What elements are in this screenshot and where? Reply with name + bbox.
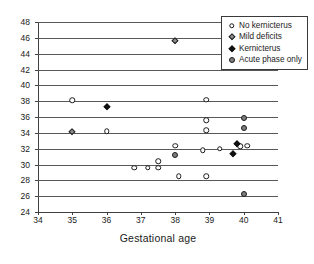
data-point	[217, 146, 223, 152]
x-axis-label: Gestational age	[38, 232, 278, 244]
legend-marker-glyph	[228, 45, 236, 53]
legend-label: Mild deficits	[239, 33, 282, 41]
data-point	[70, 98, 76, 104]
y-tick-mark	[35, 180, 38, 181]
data-point	[172, 143, 178, 149]
y-tick-mark	[35, 117, 38, 118]
y-tick-mark	[35, 38, 38, 39]
gridline	[38, 85, 278, 86]
data-point	[241, 125, 247, 131]
scatter-plot-figure: 24262830323436384042444648 3435363738394…	[0, 0, 314, 264]
y-tick-mark	[35, 70, 38, 71]
data-point	[241, 115, 247, 121]
legend-marker-glyph	[229, 23, 235, 29]
y-tick-label: 46	[21, 34, 30, 43]
y-tick-label: 40	[21, 81, 30, 90]
y-tick-label: 44	[21, 49, 30, 58]
data-point	[155, 165, 161, 171]
legend-label: Kernicterus	[239, 45, 280, 53]
legend-marker-icon	[226, 32, 237, 43]
y-tick-label: 36	[21, 113, 30, 122]
y-tick-label: 32	[21, 144, 30, 153]
legend-item: Acute phase only	[226, 55, 302, 67]
legend-marker-icon	[226, 20, 237, 31]
x-tick-label: 41	[273, 216, 282, 225]
data-point	[103, 103, 111, 111]
y-tick-label: 28	[21, 176, 30, 185]
y-tick-mark	[35, 133, 38, 134]
legend-label: Acute phase only	[239, 56, 302, 64]
y-tick-label: 30	[21, 160, 30, 169]
legend-label: No kernicterus	[239, 22, 292, 30]
gridline	[38, 180, 278, 181]
x-axis-line	[38, 212, 278, 213]
y-tick-mark	[35, 165, 38, 166]
data-point	[145, 165, 151, 171]
legend-item: Mild deficits	[226, 32, 302, 44]
data-point	[131, 165, 137, 171]
data-point	[230, 150, 238, 158]
data-point	[68, 128, 76, 136]
legend-item: Kernicterus	[226, 43, 302, 55]
x-tick-label: 40	[239, 216, 248, 225]
data-point	[203, 117, 209, 123]
data-point	[203, 174, 209, 180]
y-tick-mark	[35, 196, 38, 197]
data-point	[200, 148, 206, 154]
x-tick-label: 35	[68, 216, 77, 225]
x-tick-label: 36	[102, 216, 111, 225]
legend-marker-icon	[226, 55, 237, 66]
data-point	[203, 97, 209, 103]
y-tick-label: 42	[21, 65, 30, 74]
x-tick-label: 39	[205, 216, 214, 225]
data-point	[203, 128, 209, 134]
y-tick-label: 34	[21, 129, 30, 138]
data-point	[155, 159, 161, 165]
y-tick-mark	[35, 22, 38, 23]
y-tick-mark	[35, 101, 38, 102]
x-tick-label: 37	[136, 216, 145, 225]
data-point	[172, 152, 178, 158]
x-tick-label: 38	[170, 216, 179, 225]
y-tick-label: 26	[21, 192, 30, 201]
y-tick-mark	[35, 149, 38, 150]
legend-marker-glyph	[229, 57, 235, 63]
y-tick-label: 24	[21, 208, 30, 217]
data-point	[244, 143, 250, 149]
data-point	[241, 191, 247, 197]
legend-item: No kernicterus	[226, 20, 302, 32]
x-tick-label: 34	[33, 216, 42, 225]
y-tick-label: 38	[21, 97, 30, 106]
data-point	[176, 174, 182, 180]
legend-marker-glyph	[228, 33, 236, 41]
legend-marker-icon	[226, 43, 237, 54]
y-tick-mark	[35, 54, 38, 55]
legend: No kernicterusMild deficitsKernicterusAc…	[221, 16, 308, 70]
data-point	[104, 129, 110, 135]
y-tick-label: 48	[21, 18, 30, 27]
y-tick-mark	[35, 85, 38, 86]
